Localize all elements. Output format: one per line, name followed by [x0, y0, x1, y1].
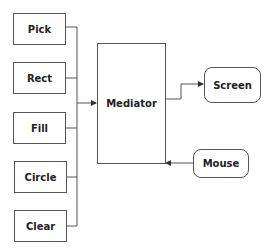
screen-label: Screen: [213, 80, 252, 91]
mouse-label: Mouse: [203, 158, 240, 169]
mediator-box: Mediator: [97, 43, 166, 164]
component-fill: Fill: [13, 112, 66, 144]
screen-box: Screen: [204, 67, 261, 103]
component-rect: Rect: [13, 62, 66, 94]
rect-label: Rect: [27, 73, 52, 84]
mouse-box: Mouse: [193, 149, 249, 178]
component-circle: Circle: [14, 161, 67, 193]
clear-label: Clear: [26, 221, 55, 232]
circle-label: Circle: [25, 172, 57, 183]
pick-label: Pick: [28, 24, 51, 35]
component-pick: Pick: [13, 13, 66, 45]
component-clear: Clear: [14, 210, 67, 242]
mediator-label: Mediator: [106, 98, 157, 109]
fill-label: Fill: [31, 123, 48, 134]
